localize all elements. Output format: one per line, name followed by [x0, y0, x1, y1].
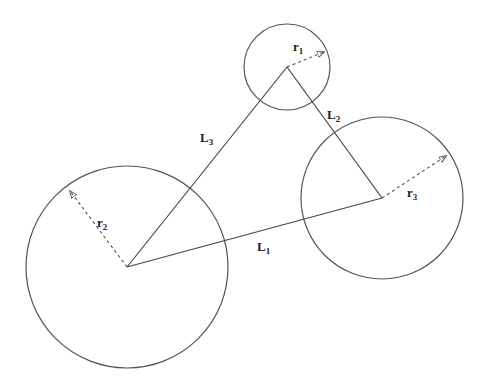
edge-L1	[127, 198, 382, 267]
label-L2: L2	[327, 107, 341, 124]
label-r2: r2	[97, 215, 108, 232]
label-L3: L3	[200, 130, 214, 147]
edge-L2	[287, 67, 382, 198]
label-L1: L1	[257, 239, 271, 256]
radius-arrow-r1	[287, 52, 324, 67]
edge-L3	[127, 67, 287, 267]
diagram-canvas: r1 r2 r3 L1 L2 L3	[0, 0, 484, 388]
label-r3: r3	[407, 185, 418, 202]
label-r1: r1	[293, 39, 304, 56]
